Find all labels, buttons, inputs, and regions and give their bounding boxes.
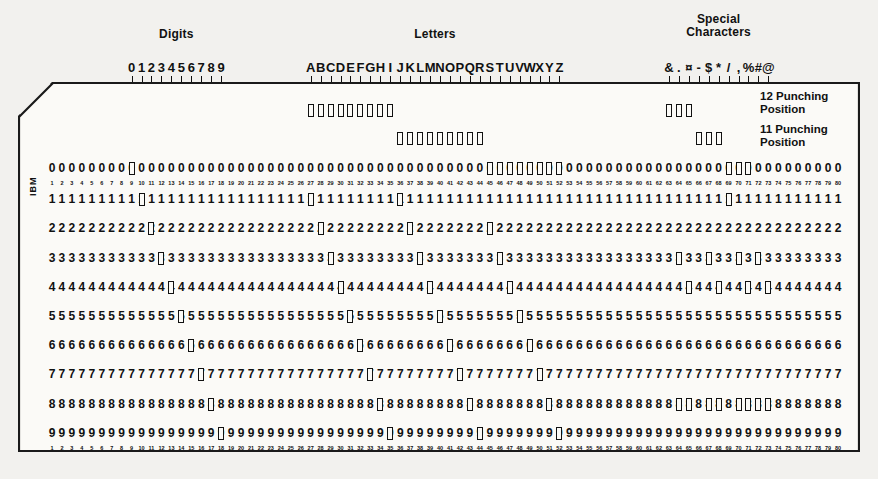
printed-digit: 1 [834, 192, 843, 206]
printed-digit: 1 [356, 192, 365, 206]
printed-digit: 7 [684, 367, 693, 381]
printed-digit: 6 [197, 338, 206, 352]
printed-digit: 7 [276, 367, 285, 381]
punch-hole [487, 162, 493, 175]
printed-digit: 2 [794, 221, 803, 235]
printed-digit: 6 [286, 338, 295, 352]
printed-digit: 8 [57, 397, 66, 411]
printed-digit: 9 [276, 426, 285, 440]
printed-digit: 9 [834, 426, 843, 440]
punch-hole [397, 132, 403, 145]
punch-hole [367, 368, 373, 381]
printed-digit: 9 [396, 426, 405, 440]
printed-digit: 6 [615, 338, 624, 352]
printed-digit: 1 [336, 192, 345, 206]
punch-hole [527, 339, 533, 352]
printed-digit: 1 [436, 192, 445, 206]
printed-digit: 9 [376, 426, 385, 440]
printed-digit: 5 [754, 309, 763, 323]
printed-digit: 4 [117, 280, 126, 294]
printed-digit: 8 [286, 397, 295, 411]
punch-hole [527, 162, 533, 175]
punch-hole [517, 310, 523, 323]
punch-hole [537, 368, 543, 381]
printed-digit: 5 [237, 309, 246, 323]
printed-digit: 4 [77, 280, 86, 294]
printed-digit: 1 [784, 192, 793, 206]
punch-hole [367, 104, 373, 117]
printed-digit-row-2: 2222222222222222222222222222222222222222… [0, 221, 878, 235]
printed-digit: 7 [167, 367, 176, 381]
printed-digit: 1 [426, 192, 435, 206]
printed-digit: 6 [485, 338, 494, 352]
printed-digit: 0 [306, 161, 315, 175]
printed-digit: 1 [346, 192, 355, 206]
printed-digit: 3 [505, 251, 514, 265]
printed-digit: 2 [386, 221, 395, 235]
printed-digit: 3 [575, 251, 584, 265]
printed-digit: 5 [824, 309, 833, 323]
printed-digit: 3 [784, 251, 793, 265]
printed-digit: 3 [694, 251, 703, 265]
printed-digit: 6 [744, 338, 753, 352]
printed-digit: 8 [356, 397, 365, 411]
printed-digit: 3 [97, 251, 106, 265]
printed-digit: 8 [48, 397, 57, 411]
printed-digit: 1 [555, 192, 564, 206]
label-12-punching-position: 12 Punching Position [760, 90, 828, 116]
punch-hole [437, 310, 443, 323]
printed-digit: 7 [724, 367, 733, 381]
printed-digit: 6 [167, 338, 176, 352]
printed-digit: 4 [197, 280, 206, 294]
printed-digit: 7 [107, 367, 116, 381]
printed-digit: 4 [207, 280, 216, 294]
punch-hole [507, 281, 513, 294]
printed-digit: 0 [475, 161, 484, 175]
printed-digit: 2 [545, 221, 554, 235]
printed-digit: 6 [585, 338, 594, 352]
printed-digit-row-1: 1111111111111111111111111111111111111111… [0, 192, 878, 206]
punch-hole [139, 193, 145, 206]
punch-hole [765, 281, 771, 294]
punch-hole [457, 368, 463, 381]
printed-digit: 1 [565, 192, 574, 206]
printed-digit: 0 [625, 161, 634, 175]
printed-digit: 6 [644, 338, 653, 352]
printed-digit: 7 [615, 367, 624, 381]
printed-digit: 1 [485, 192, 494, 206]
printed-digit: 8 [505, 397, 514, 411]
printed-digit: 9 [615, 426, 624, 440]
printed-digit: 6 [177, 338, 186, 352]
printed-digit: 8 [326, 397, 335, 411]
printed-digit: 9 [754, 426, 763, 440]
printed-digit: 6 [237, 338, 246, 352]
printed-digit: 8 [555, 397, 564, 411]
printed-digit: 1 [57, 192, 66, 206]
printed-digit: 3 [197, 251, 206, 265]
printed-digit: 8 [525, 397, 534, 411]
punch-hole [736, 252, 742, 265]
printed-digit: 5 [744, 309, 753, 323]
printed-digit: 0 [714, 161, 723, 175]
printed-digit: 0 [416, 161, 425, 175]
printed-digit: 5 [266, 309, 275, 323]
printed-digit: 7 [227, 367, 236, 381]
printed-digit: 6 [804, 338, 813, 352]
printed-digit: 9 [774, 426, 783, 440]
printed-digit: 5 [485, 309, 494, 323]
punch-hole [546, 398, 552, 411]
punch-hole [447, 339, 453, 352]
printed-digit: 7 [794, 367, 803, 381]
printed-digit: 0 [276, 161, 285, 175]
printed-digit: 2 [824, 221, 833, 235]
punch-hole [357, 104, 363, 117]
printed-digit: 4 [455, 280, 464, 294]
printed-digit: 3 [67, 251, 76, 265]
printed-digit: 0 [237, 161, 246, 175]
printed-digit: 0 [615, 161, 624, 175]
printed-digit: 6 [545, 338, 554, 352]
printed-digit: 4 [366, 280, 375, 294]
printed-digit: 1 [455, 192, 464, 206]
printed-digit: 1 [326, 192, 335, 206]
printed-digit: 6 [127, 338, 136, 352]
